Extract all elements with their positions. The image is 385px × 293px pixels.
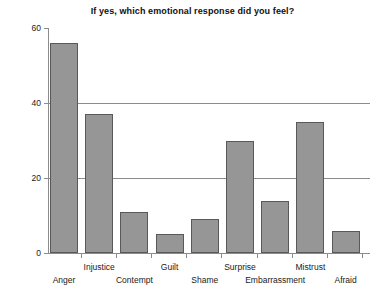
x-axis-line — [48, 253, 370, 254]
plot-area: 0204060 — [48, 28, 370, 253]
bar — [85, 114, 113, 253]
x-axis-category-label: Mistrust — [296, 262, 326, 272]
bar — [296, 122, 324, 253]
y-axis-tick-label: 0 — [36, 248, 41, 258]
y-axis-tick-mark — [44, 253, 48, 254]
y-axis-tick-mark — [44, 28, 48, 29]
x-axis-category-label: Guilt — [161, 262, 178, 272]
y-axis-tick-mark — [44, 178, 48, 179]
x-axis-tick-mark — [362, 253, 363, 258]
bar — [226, 141, 254, 254]
bar-chart: If yes, which emotional response did you… — [0, 0, 385, 293]
x-axis-tick-mark — [116, 253, 117, 258]
bar — [120, 212, 148, 253]
bar — [191, 219, 219, 253]
bar — [261, 201, 289, 254]
y-axis-tick-label: 20 — [32, 173, 41, 183]
bar — [50, 43, 78, 253]
x-axis-category-label: Shame — [191, 275, 218, 285]
x-axis-tick-mark — [327, 253, 328, 258]
x-axis-tick-mark — [257, 253, 258, 258]
x-axis-tick-mark — [292, 253, 293, 258]
chart-title: If yes, which emotional response did you… — [0, 6, 385, 16]
y-axis-tick-label: 40 — [32, 98, 41, 108]
x-axis-category-label: Injustice — [84, 262, 115, 272]
gridline — [48, 103, 370, 104]
y-axis-tick-mark — [44, 103, 48, 104]
x-axis-category-label: Embarrassment — [245, 275, 305, 285]
x-axis-category-label: Afraid — [334, 275, 356, 285]
x-axis-tick-mark — [221, 253, 222, 258]
bar — [156, 234, 184, 253]
x-axis-tick-mark — [186, 253, 187, 258]
y-axis-tick-label: 60 — [32, 23, 41, 33]
x-axis-tick-mark — [81, 253, 82, 258]
x-axis-category-label: Anger — [53, 275, 76, 285]
x-axis-category-label: Surprise — [224, 262, 256, 272]
bar — [332, 231, 360, 254]
x-axis-category-label: Contempt — [116, 275, 153, 285]
x-axis-tick-mark — [151, 253, 152, 258]
